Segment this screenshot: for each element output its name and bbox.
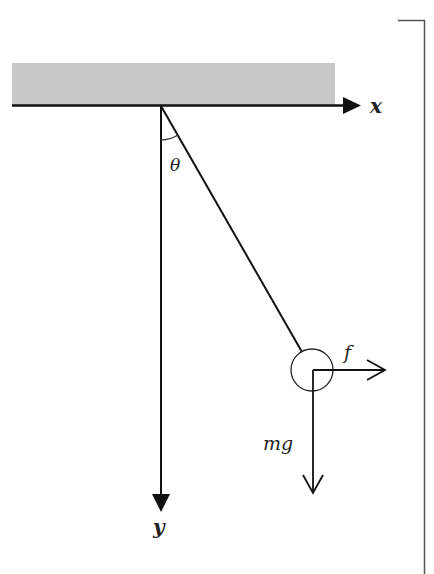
x-axis-label: x	[369, 94, 383, 118]
angle-label: θ	[170, 155, 180, 175]
pendulum-diagram: x y θ f mg	[0, 0, 434, 574]
right-bracket	[398, 21, 425, 574]
force-f-arrow	[313, 360, 385, 380]
pendulum-string	[161, 106, 302, 352]
x-arrow-icon	[343, 97, 361, 114]
y-axis	[152, 106, 170, 512]
force-f-label: f	[342, 341, 354, 363]
force-mg-arrow	[303, 370, 323, 493]
angle-arc	[161, 135, 178, 140]
force-mg-label: mg	[263, 432, 293, 454]
y-axis-label: y	[152, 515, 166, 539]
y-arrow-icon	[152, 494, 170, 512]
ceiling-block	[12, 63, 335, 105]
